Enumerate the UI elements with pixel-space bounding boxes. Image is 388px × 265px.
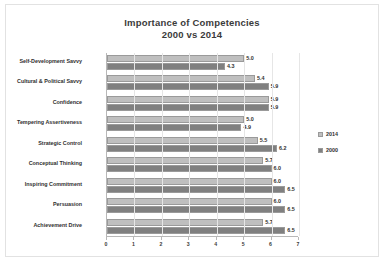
bar-group: 5.04.3: [107, 55, 298, 72]
bar-value-label: 6.0: [274, 165, 282, 172]
bar-2014[interactable]: [107, 157, 263, 164]
bar-group: 5.04.9: [107, 116, 298, 133]
bar-value-label: 5.0: [246, 55, 254, 62]
legend-swatch-2000: [318, 148, 323, 153]
bar-group: 5.56.2: [107, 137, 298, 154]
bar-value-label: 6.0: [274, 178, 282, 185]
category-label: Conceptual Thinking: [0, 160, 82, 166]
plot-area: 5.04.35.45.95.95.95.04.95.56.25.76.06.06…: [106, 53, 298, 237]
gridline: [272, 53, 273, 236]
gridline: [217, 53, 218, 236]
legend-item-2000[interactable]: 2000: [318, 147, 338, 153]
x-tick-label: 7: [297, 241, 300, 247]
category-label: Persuasion: [0, 201, 82, 207]
bar-2014[interactable]: [107, 137, 258, 144]
bar-value-label: 6.2: [279, 145, 287, 152]
bar-group: 5.95.9: [107, 96, 298, 113]
gridline: [162, 53, 163, 236]
bar-value-label: 5.5: [260, 137, 268, 144]
bar-group: 5.76.5: [107, 219, 298, 236]
gridline: [299, 53, 300, 236]
bar-rows: 5.04.35.45.95.95.95.04.95.56.25.76.06.06…: [107, 53, 298, 236]
chart-title: Importance of Competencies 2000 vs 2014: [6, 17, 378, 41]
chart-legend: 2014 2000: [318, 131, 338, 163]
category-label: Inspiring Commitment: [0, 181, 82, 187]
bar-group: 6.06.5: [107, 178, 298, 195]
bar-value-label: 4.3: [227, 63, 235, 70]
category-label: Self-Development Savvy: [0, 58, 82, 64]
category-label: Confidence: [0, 99, 82, 105]
bar-2000[interactable]: [107, 63, 225, 70]
gridline: [189, 53, 190, 236]
x-tick-label: 6: [269, 241, 272, 247]
gridline: [134, 53, 135, 236]
bar-value-label: 6.5: [287, 227, 295, 234]
x-tick-mark: [161, 237, 162, 240]
bar-2014[interactable]: [107, 219, 263, 226]
x-tick-mark: [271, 237, 272, 240]
chart-title-line2: 2000 vs 2014: [6, 29, 378, 41]
bar-value-label: 5.0: [246, 116, 254, 123]
bar-group: 5.76.0: [107, 157, 298, 174]
x-tick-label: 4: [214, 241, 217, 247]
gridline: [244, 53, 245, 236]
bar-value-label: 6.0: [274, 198, 282, 205]
x-tick-label: 2: [159, 241, 162, 247]
category-label: Cultural & Political Savvy: [0, 78, 82, 84]
chart-container: Importance of Competencies 2000 vs 2014 …: [5, 4, 379, 257]
x-tick-mark: [298, 237, 299, 240]
legend-label-2000: 2000: [326, 147, 338, 153]
x-tick-mark: [243, 237, 244, 240]
legend-item-2014[interactable]: 2014: [318, 131, 338, 137]
bar-2000[interactable]: [107, 124, 241, 131]
x-tick-mark: [216, 237, 217, 240]
x-tick-mark: [133, 237, 134, 240]
category-label: Strategic Control: [0, 140, 82, 146]
bar-group: 6.06.5: [107, 198, 298, 215]
x-tick-label: 0: [105, 241, 108, 247]
x-tick-label: 3: [187, 241, 190, 247]
x-tick-mark: [188, 237, 189, 240]
bar-group: 5.45.9: [107, 75, 298, 92]
chart-title-line1: Importance of Competencies: [124, 17, 260, 28]
x-tick-label: 5: [242, 241, 245, 247]
bar-2014[interactable]: [107, 75, 255, 82]
bar-2000[interactable]: [107, 145, 277, 152]
bar-2014[interactable]: [107, 55, 244, 62]
category-label: Achievement Drive: [0, 222, 82, 228]
x-tick-mark: [106, 237, 107, 240]
bar-value-label: 5.4: [257, 75, 265, 82]
legend-swatch-2014: [318, 132, 323, 137]
bar-value-label: 6.5: [287, 206, 295, 213]
category-label: Tempering Assertiveness: [0, 119, 82, 125]
legend-label-2014: 2014: [326, 131, 338, 137]
bar-2014[interactable]: [107, 116, 244, 123]
x-tick-label: 1: [132, 241, 135, 247]
bar-value-label: 6.5: [287, 186, 295, 193]
